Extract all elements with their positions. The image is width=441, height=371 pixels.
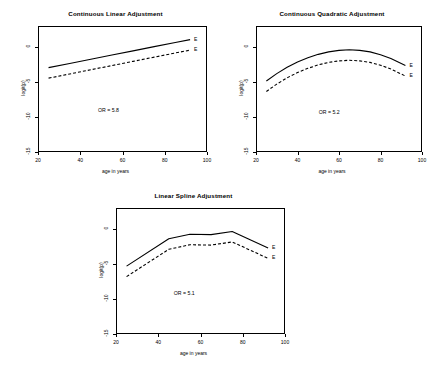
series-layer: [256, 26, 422, 152]
y-tick-label: -10: [25, 110, 31, 122]
x-axis-title: age in years: [226, 168, 438, 174]
x-tick-label: 80: [371, 157, 391, 163]
series-line-exposed: [49, 40, 191, 68]
y-tick: [113, 334, 116, 335]
series-layer: [38, 26, 207, 152]
x-tick: [80, 152, 81, 155]
panel-title: Continuous Linear Adjustment: [8, 10, 223, 17]
panel-title: Continuous Quadratic Adjustment: [226, 10, 438, 17]
odds-ratio-annotation: OR = 5.8: [98, 107, 119, 113]
x-tick-label: 100: [275, 339, 295, 345]
x-tick-label: 80: [155, 157, 175, 163]
y-tick-label: 0: [25, 40, 31, 52]
y-tick: [35, 152, 38, 153]
series-line-unexposed: [127, 242, 269, 277]
y-tick-label: -15: [103, 327, 109, 339]
odds-ratio-annotation: OR = 5.1: [174, 290, 195, 296]
x-tick: [116, 334, 117, 337]
y-axis-title: logit(p): [98, 255, 104, 285]
x-tick: [201, 334, 202, 337]
panel-continuous-quadratic: Continuous Quadratic Adjustment204060801…: [226, 4, 438, 190]
x-tick-label: 40: [288, 157, 308, 163]
x-tick: [298, 152, 299, 155]
x-tick: [243, 334, 244, 337]
y-tick: [253, 152, 256, 153]
x-tick: [207, 152, 208, 155]
x-tick-label: 60: [113, 157, 133, 163]
x-tick-label: 20: [28, 157, 48, 163]
x-tick-label: 20: [246, 157, 266, 163]
series-line-exposed: [266, 50, 405, 81]
y-tick-label: 0: [243, 40, 249, 52]
series-line-unexposed: [266, 60, 405, 91]
x-tick-label: 100: [197, 157, 217, 163]
x-tick-label: 60: [329, 157, 349, 163]
y-axis-title: logit(p): [238, 73, 244, 103]
series-line-unexposed: [49, 50, 191, 78]
y-tick-label: -15: [243, 145, 249, 157]
y-tick-label: -10: [103, 292, 109, 304]
panel-continuous-linear: Continuous Linear Adjustment20406080100a…: [8, 4, 223, 190]
x-tick-label: 60: [191, 339, 211, 345]
x-tick: [339, 152, 340, 155]
x-tick-label: 40: [70, 157, 90, 163]
panel-linear-spline: Linear Spline Adjustment20406080100age i…: [86, 186, 301, 371]
figure-canvas: Continuous Linear Adjustment20406080100a…: [0, 0, 441, 371]
x-tick-label: 40: [148, 339, 168, 345]
x-tick: [38, 152, 39, 155]
panel-title: Linear Spline Adjustment: [86, 192, 301, 199]
x-tick-label: 20: [106, 339, 126, 345]
y-tick-label: 0: [103, 222, 109, 234]
x-tick: [123, 152, 124, 155]
x-tick: [381, 152, 382, 155]
odds-ratio-annotation: OR = 5.2: [319, 109, 340, 115]
x-tick: [422, 152, 423, 155]
x-axis-title: age in years: [86, 350, 301, 356]
y-axis-title: logit(p): [20, 73, 26, 103]
x-tick: [165, 152, 166, 155]
x-tick: [158, 334, 159, 337]
x-tick: [256, 152, 257, 155]
y-tick-label: -10: [243, 110, 249, 122]
x-tick: [285, 334, 286, 337]
x-axis-title: age in years: [8, 168, 223, 174]
y-tick-label: -15: [25, 145, 31, 157]
series-layer: [116, 208, 285, 334]
x-tick-label: 100: [412, 157, 432, 163]
x-tick-label: 80: [233, 339, 253, 345]
